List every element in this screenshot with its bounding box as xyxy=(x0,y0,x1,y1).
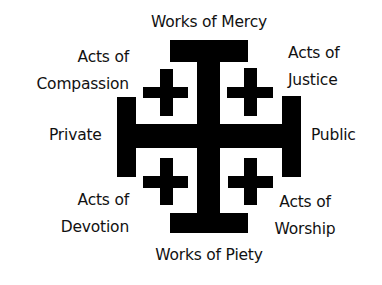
cross-left-end-bar xyxy=(117,97,136,177)
label-public: Public xyxy=(311,122,356,149)
label-line-1: Acts of xyxy=(288,40,382,67)
label-private: Private xyxy=(49,122,102,149)
label-acts-of-compassion: Acts of Compassion xyxy=(0,44,129,98)
label-line-1: Acts of xyxy=(0,44,129,71)
label-works-of-mercy: Works of Mercy xyxy=(120,9,298,36)
label-line-2: Devotion xyxy=(0,214,129,241)
label-acts-of-devotion: Acts of Devotion xyxy=(0,187,129,241)
small-cross-horizontal xyxy=(228,176,273,188)
cross-bottom-bar xyxy=(170,213,248,233)
label-line-2: Compassion xyxy=(0,71,129,98)
label-line-2: Justice xyxy=(288,67,382,94)
label-line-1: Acts of xyxy=(0,187,129,214)
small-cross-horizontal xyxy=(143,87,188,98)
small-cross-horizontal xyxy=(143,176,188,188)
label-acts-of-justice: Acts of Justice xyxy=(288,40,382,94)
label-works-of-piety: Works of Piety xyxy=(130,242,288,269)
cross-right-end-bar xyxy=(282,96,301,177)
small-cross-horizontal xyxy=(227,87,273,98)
label-line-1: Acts of xyxy=(266,189,344,216)
cross-horizontal-arm xyxy=(117,124,301,148)
label-acts-of-worship: Acts of Worship xyxy=(266,189,344,243)
label-line-2: Worship xyxy=(266,216,344,243)
